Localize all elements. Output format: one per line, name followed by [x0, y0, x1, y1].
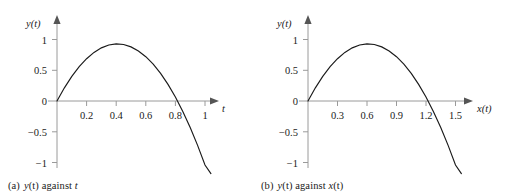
- y-tick-label-a-neg0.5: −0.5: [28, 127, 47, 138]
- y-tick-label-b-0: 0: [293, 96, 298, 107]
- x-axis-label-b: x(t): [476, 103, 492, 115]
- caption-a-middle: against: [39, 180, 75, 191]
- caption-a: (a)y(t) against t: [8, 180, 78, 192]
- trajectory-curve-a: [57, 44, 211, 174]
- x-tick-label-a-0.6: 0.6: [139, 110, 152, 121]
- y-tick-label-a-0.5: 0.5: [34, 65, 47, 76]
- panel-a: y(t) t 1 0.5 0 −0.5 −1: [0, 0, 253, 195]
- y-tick-label-b-neg1: −1: [287, 158, 298, 169]
- y-axis-label-a: y(t): [25, 18, 41, 30]
- x-tick-label-b-0.9: 0.9: [390, 110, 403, 121]
- y-axis-arrow-a: [53, 15, 60, 24]
- x-tick-label-b-1.5: 1.5: [449, 110, 462, 121]
- trajectory-curve-b: [308, 44, 461, 174]
- panel-b: y(t) x(t) 1 0.5 0 −0.5 −1 0.3: [253, 0, 506, 195]
- y-tick-label-b-1: 1: [293, 35, 298, 46]
- x-tick-label-a-0.4: 0.4: [110, 110, 124, 121]
- x-axis-arrow-a: [210, 97, 219, 104]
- x-tick-label-a-0.8: 0.8: [169, 110, 182, 121]
- y-axis-label-b: y(t): [276, 18, 292, 30]
- x-tick-label-b-1.2: 1.2: [419, 110, 432, 121]
- y-axis-arrow-b: [304, 15, 311, 24]
- x-tick-label-a-0.2: 0.2: [80, 110, 93, 121]
- y-tick-label-a-0: 0: [42, 96, 47, 107]
- caption-b: (b)y(t) against x(t): [261, 180, 343, 192]
- y-tick-label-a-neg1: −1: [36, 158, 47, 169]
- figure-container: y(t) t 1 0.5 0 −0.5 −1: [0, 0, 507, 195]
- y-tick-label-b-0.5: 0.5: [285, 65, 298, 76]
- caption-b-paren2: (t): [333, 180, 343, 191]
- plot-b: y(t) x(t) 1 0.5 0 −0.5 −1 0.3: [253, 0, 506, 175]
- caption-a-var2: t: [75, 180, 78, 191]
- caption-a-paren1: (t): [29, 180, 39, 191]
- x-axis-label-a: t: [222, 103, 226, 114]
- caption-b-paren1: (t): [282, 180, 292, 191]
- x-tick-label-b-0.3: 0.3: [331, 110, 344, 121]
- x-tick-label-b-0.6: 0.6: [360, 110, 373, 121]
- caption-a-tag: (a): [8, 180, 20, 191]
- x-axis-arrow-b: [464, 97, 473, 104]
- caption-b-tag: (b): [261, 180, 274, 191]
- y-tick-label-a-1: 1: [42, 35, 47, 46]
- plot-a: y(t) t 1 0.5 0 −0.5 −1: [0, 0, 253, 175]
- y-tick-label-b-neg0.5: −0.5: [279, 127, 298, 138]
- caption-b-middle: against: [293, 180, 329, 191]
- x-tick-label-a-1: 1: [202, 110, 207, 121]
